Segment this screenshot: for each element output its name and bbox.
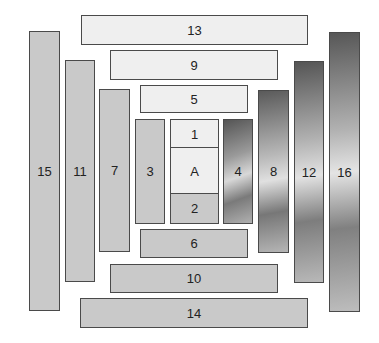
- box-label: 5: [190, 92, 197, 107]
- box-6: 6: [140, 229, 248, 258]
- box-label: 15: [37, 164, 51, 179]
- box-10: 10: [110, 264, 278, 293]
- box-5: 5: [140, 85, 248, 113]
- box-label: 2: [191, 201, 198, 216]
- box-11: 11: [65, 60, 95, 282]
- box-label: 8: [270, 164, 277, 179]
- box-A: A: [170, 147, 219, 195]
- box-label: A: [190, 164, 199, 179]
- box-15: 15: [29, 31, 60, 311]
- box-label: 14: [187, 306, 201, 321]
- box-3: 3: [135, 119, 165, 224]
- box-label: 7: [111, 163, 118, 178]
- box-2: 2: [170, 193, 219, 224]
- box-4: 4: [223, 119, 253, 224]
- box-14: 14: [80, 298, 308, 328]
- box-16: 16: [329, 32, 360, 312]
- box-label: 9: [190, 58, 197, 73]
- box-label: 6: [190, 236, 197, 251]
- box-label: 12: [302, 165, 316, 180]
- box-label: 3: [146, 164, 153, 179]
- box-13: 13: [81, 15, 308, 45]
- box-9: 9: [110, 50, 278, 80]
- box-label: 16: [337, 165, 351, 180]
- box-label: 13: [187, 23, 201, 38]
- box-12: 12: [294, 61, 324, 283]
- box-7: 7: [99, 89, 130, 252]
- box-8: 8: [258, 90, 289, 253]
- box-1: 1: [170, 119, 219, 149]
- box-label: 10: [187, 271, 201, 286]
- box-label: 4: [234, 164, 241, 179]
- box-label: 11: [73, 164, 87, 179]
- box-label: 1: [191, 127, 198, 142]
